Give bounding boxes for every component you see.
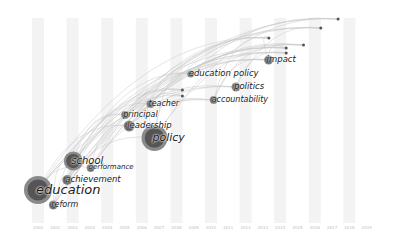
minor-node[interactable]	[319, 27, 322, 30]
minor-node[interactable]	[181, 95, 184, 98]
year-tick-label: 2003	[85, 225, 95, 230]
year-tick-label: 2006	[137, 225, 147, 230]
keyword-label: education	[36, 183, 101, 196]
year-stripe	[309, 18, 321, 223]
year-tick-label: 2007	[154, 225, 164, 230]
keyword-label: principal	[123, 111, 157, 119]
year-tick-label: 2010	[206, 225, 216, 230]
year-stripe	[170, 18, 182, 223]
minor-node[interactable]	[285, 47, 288, 50]
keyword-label: school	[71, 156, 103, 166]
keyword-label: achievement	[65, 175, 120, 184]
minor-node[interactable]	[302, 44, 305, 47]
year-tick-label: 2001	[50, 225, 60, 230]
year-tick-label: 2014	[275, 225, 285, 230]
keyword-label: teacher	[149, 100, 180, 108]
keyword-label: policy	[153, 132, 185, 143]
year-tick-label: 2019	[362, 225, 372, 230]
keyword-label: impact	[267, 55, 296, 64]
year-tick-label: 2000	[33, 225, 43, 230]
year-tick-label: 2008	[171, 225, 181, 230]
year-stripe	[343, 18, 355, 223]
keyword-label: leadership	[127, 121, 172, 130]
keyword-label: accountability	[212, 96, 268, 104]
year-tick-label: 2013	[258, 225, 268, 230]
year-tick-label: 2009	[189, 225, 199, 230]
year-tick-label: 2018	[344, 225, 354, 230]
year-stripe	[274, 18, 286, 223]
link	[91, 48, 287, 168]
year-tick-label: 2002	[68, 225, 78, 230]
year-tick-label: 2005	[119, 225, 129, 230]
year-tick-label: 2012	[241, 225, 251, 230]
keyword-label: politics	[234, 82, 264, 91]
year-tick-label: 2011	[223, 225, 233, 230]
minor-node[interactable]	[181, 89, 184, 92]
year-tick-label: 2016	[310, 225, 320, 230]
keyword-label: reform	[51, 201, 78, 209]
minor-node[interactable]	[267, 37, 270, 40]
year-tick-label: 2015	[292, 225, 302, 230]
year-tick-label: 2004	[102, 225, 112, 230]
year-tick-label: 2017	[327, 225, 337, 230]
minor-node[interactable]	[337, 18, 340, 21]
keyword-label: education policy	[189, 69, 259, 78]
